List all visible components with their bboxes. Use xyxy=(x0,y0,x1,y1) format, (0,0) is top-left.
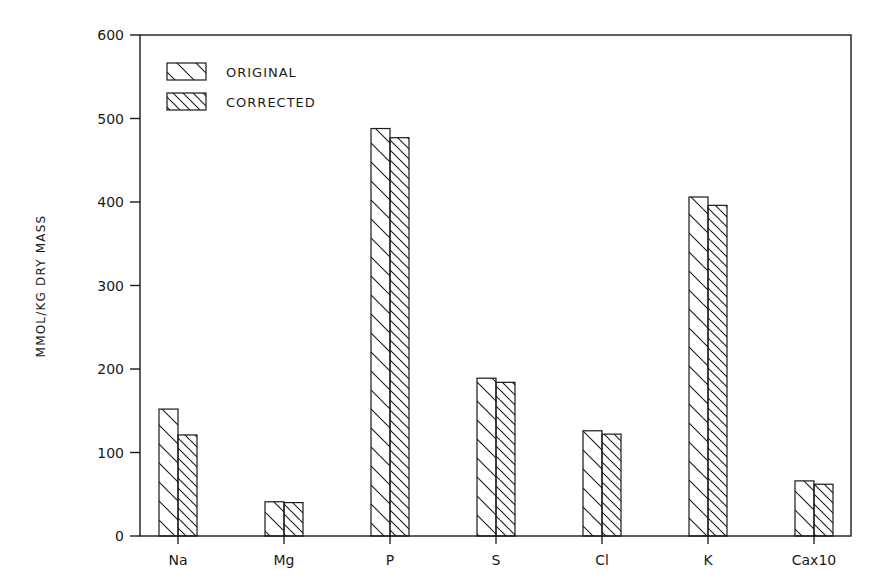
bar-original xyxy=(265,502,284,536)
y-tick-label: 300 xyxy=(97,278,124,294)
x-tick-label: Mg xyxy=(274,552,295,568)
bar-corrected xyxy=(178,435,197,536)
bar-original xyxy=(583,431,602,536)
y-tick-label: 100 xyxy=(97,445,124,461)
bar-original xyxy=(689,197,708,536)
legend-label-original: ORIGINAL xyxy=(226,65,297,80)
bar-corrected xyxy=(390,138,409,536)
x-tick-label: Na xyxy=(168,552,187,568)
legend-item-corrected: CORRECTED xyxy=(167,93,316,110)
x-tick-label: K xyxy=(703,552,713,568)
legend-label-corrected: CORRECTED xyxy=(226,95,316,110)
bar-group-na xyxy=(159,409,197,536)
bar-group-mg xyxy=(265,502,303,536)
bar-chart: 0100200300400500600 NaMgPSClKCax10 MMOL/… xyxy=(0,0,875,587)
bar-corrected xyxy=(708,205,727,536)
bar-original xyxy=(371,129,390,536)
bar-group-k xyxy=(689,197,727,536)
x-tick-label: Cax10 xyxy=(792,552,836,568)
x-axis: NaMgPSClKCax10 xyxy=(168,536,836,568)
bar-corrected xyxy=(496,382,515,536)
y-tick-label: 600 xyxy=(97,27,124,43)
x-tick-label: Cl xyxy=(595,552,609,568)
bar-corrected xyxy=(602,434,621,536)
bar-group-cax10 xyxy=(795,481,833,536)
y-axis-label: MMOL/KG DRY MASS xyxy=(34,215,48,358)
y-tick-label: 400 xyxy=(97,194,124,210)
bar-original xyxy=(159,409,178,536)
x-tick-label: P xyxy=(386,552,394,568)
x-tick-label: S xyxy=(492,552,501,568)
bar-original xyxy=(795,481,814,536)
y-tick-label: 200 xyxy=(97,361,124,377)
legend-item-original: ORIGINAL xyxy=(167,63,297,80)
bar-corrected xyxy=(814,484,833,536)
bar-original xyxy=(477,378,496,536)
bar-group-p xyxy=(371,129,409,536)
legend-swatch-corrected xyxy=(167,93,206,110)
y-axis: 0100200300400500600 xyxy=(97,27,140,544)
legend-swatch-original xyxy=(167,63,206,80)
bars xyxy=(159,129,833,536)
y-tick-label: 500 xyxy=(97,111,124,127)
bar-group-s xyxy=(477,378,515,536)
legend: ORIGINAL CORRECTED xyxy=(167,63,316,110)
y-tick-label: 0 xyxy=(115,528,124,544)
bar-group-cl xyxy=(583,431,621,536)
bar-corrected xyxy=(284,503,303,536)
